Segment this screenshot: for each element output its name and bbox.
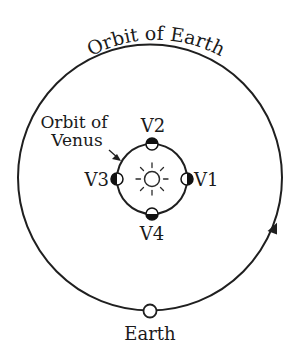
venus-v1-label: V1 <box>193 169 218 190</box>
venus-v4-label: V4 <box>139 223 164 244</box>
venus-v4-icon <box>146 208 158 220</box>
venus-v1-icon <box>181 173 193 185</box>
venus-v2-label: V2 <box>140 115 165 136</box>
venus-v3-icon <box>111 173 123 185</box>
venus-v3-label: V3 <box>84 169 109 190</box>
earth-orbit-label: Orbit of Earth <box>83 22 229 60</box>
venus-v2-icon <box>146 138 158 150</box>
venus-orbit-pointer-icon <box>109 150 121 161</box>
venus-orbit-label-line1: Orbit of <box>40 112 109 132</box>
venus-phases-diagram: Orbit of Earth Earth Orbit of Venus V1 <box>0 0 301 361</box>
earth-icon <box>144 305 157 318</box>
venus-orbit-label-line2: Venus <box>50 130 102 150</box>
earth-label: Earth <box>124 323 176 344</box>
sun-icon <box>136 163 168 195</box>
